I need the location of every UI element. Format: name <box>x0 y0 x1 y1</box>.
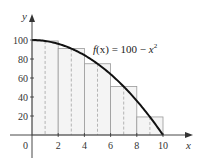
origin-label: 0 <box>23 140 28 151</box>
fn-arg: (x) <box>96 43 109 56</box>
y-tick-label: 60 <box>18 73 28 84</box>
fn-eq: = 100 − <box>109 43 149 55</box>
function-annotation: f(x) = 100 − x2 <box>93 42 158 56</box>
riemann-sum-chart: 24681020406080100 x y 0 f(x) = 100 − x2 <box>0 0 204 162</box>
y-axis-label: y <box>21 10 27 22</box>
x-tick-label: 10 <box>158 140 168 151</box>
y-tick-label: 40 <box>18 92 28 103</box>
x-axis-arrow-icon <box>185 132 193 138</box>
x-tick-label: 2 <box>56 140 61 151</box>
y-axis-arrow-icon <box>29 14 35 22</box>
fn-exp: 2 <box>154 42 158 50</box>
y-tick-label: 100 <box>13 35 28 46</box>
plot-area: 24681020406080100 x y 0 f(x) = 100 − x2 <box>0 0 204 162</box>
y-tick-label: 20 <box>18 111 28 122</box>
x-tick-label: 6 <box>108 140 113 151</box>
x-axis-label: x <box>185 139 191 151</box>
x-tick-label: 4 <box>82 140 87 151</box>
y-tick-label: 80 <box>18 54 28 65</box>
x-tick-label: 8 <box>134 140 139 151</box>
